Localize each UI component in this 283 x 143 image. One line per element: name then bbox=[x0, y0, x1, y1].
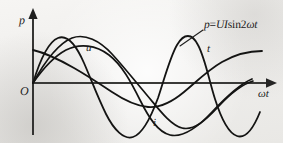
equation-part-sin: sin2 bbox=[228, 19, 247, 31]
power-equation-label: p=UIsin2ωt bbox=[204, 20, 257, 32]
x-axis-label: ωt bbox=[258, 89, 269, 100]
origin-label: O bbox=[20, 85, 29, 97]
y-axis-label: p bbox=[19, 14, 25, 26]
curve-label-time: t bbox=[207, 44, 210, 55]
equation-part-omega-t: ωt bbox=[246, 19, 257, 31]
curve-time-t bbox=[33, 50, 262, 107]
curve-label-current: i bbox=[153, 118, 156, 129]
curve-power-p bbox=[33, 36, 260, 138]
curve-label-voltage: u bbox=[86, 43, 92, 54]
figure-canvas: p O ωt u i t p=UIsin2ωt bbox=[0, 0, 283, 143]
equation-part-ui: UI bbox=[216, 19, 228, 31]
